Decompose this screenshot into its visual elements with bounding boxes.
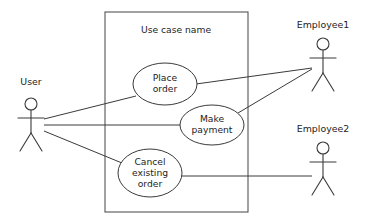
association-place-order-to-employee1 xyxy=(196,68,312,84)
association-make-payment-to-employee1 xyxy=(238,69,312,113)
association-user-to-cancel-existing-order xyxy=(44,131,122,163)
actor-leg-left-employee2 xyxy=(312,177,323,195)
actor-employee1[interactable]: Employee1 xyxy=(297,19,349,92)
system-boundary-title: Use case name xyxy=(141,24,212,35)
actor-leg-right-employee2 xyxy=(323,177,334,195)
actor-leg-left-user xyxy=(20,133,31,151)
use-case-label-place-order-line1: Place xyxy=(153,72,178,83)
actor-leg-right-employee1 xyxy=(323,73,334,91)
actor-leg-right-user xyxy=(31,133,42,151)
use-case-cancel-existing-order[interactable]: Cancelexistingorder xyxy=(118,149,182,197)
actor-label-employee1: Employee1 xyxy=(297,19,349,30)
use-case-label-cancel-existing-order-line3: order xyxy=(138,178,163,189)
association-user-to-place-order xyxy=(44,96,136,119)
use-case-diagram-canvas: Use case name PlaceorderMakepaymentCance… xyxy=(0,0,368,220)
actor-employee2[interactable]: Employee2 xyxy=(297,123,349,196)
actor-label-user: User xyxy=(20,76,42,87)
use-case-label-make-payment-line2: payment xyxy=(192,124,233,135)
use-case-make-payment[interactable]: Makepayment xyxy=(180,105,244,145)
use-case-label-cancel-existing-order-line1: Cancel xyxy=(134,156,165,167)
actor-head-icon-employee1 xyxy=(317,38,329,50)
actors-group: UserEmployee1Employee2 xyxy=(18,19,349,196)
actor-user[interactable]: User xyxy=(18,76,44,152)
use-cases-group: PlaceorderMakepaymentCancelexistingorder xyxy=(118,63,244,197)
use-case-place-order[interactable]: Placeorder xyxy=(133,63,197,105)
use-case-label-cancel-existing-order-line2: existing xyxy=(132,167,168,178)
uml-diagram-svg: Use case name PlaceorderMakepaymentCance… xyxy=(0,0,368,220)
use-case-label-make-payment-line1: Make xyxy=(200,113,225,124)
actor-head-icon-user xyxy=(25,98,37,110)
actor-label-employee2: Employee2 xyxy=(297,123,349,134)
actor-head-icon-employee2 xyxy=(317,142,329,154)
actor-leg-left-employee1 xyxy=(312,73,323,91)
use-case-label-place-order-line2: order xyxy=(153,83,178,94)
